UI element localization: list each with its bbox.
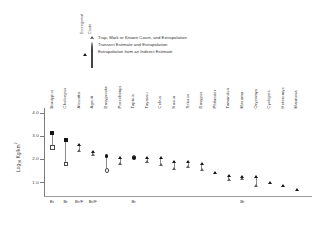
legend-label: Trap, Mark or Known Count, and Extrapola…	[98, 35, 187, 41]
category-label: Marmosa	[294, 90, 298, 108]
legend-header-ecoregional: Ecoregional	[81, 14, 85, 34]
legend-column-headers: Ecoregional Crude	[82, 2, 108, 34]
category-label: Heteromys	[280, 87, 284, 108]
y-axis-line	[44, 108, 45, 196]
category-label: Ageuti	[90, 95, 94, 108]
y-axis-tick	[40, 136, 44, 137]
data-point-crude	[227, 178, 231, 181]
data-point-ecoregional	[118, 156, 122, 159]
data-point-ecoregional	[240, 175, 244, 178]
data-point-ecoregional	[213, 171, 217, 174]
category-label: Choloepus	[63, 87, 67, 108]
data-point-ecoregional	[200, 162, 204, 165]
data-point-ecoregional	[281, 184, 285, 187]
category-label: Philander	[212, 89, 216, 108]
data-point-crude	[105, 168, 110, 173]
x-axis-group-label: Br	[240, 199, 244, 204]
category-labels: BradypusCholoepusAlouattaAgeutiDasyproct…	[0, 62, 319, 108]
circle-open-icon	[91, 43, 95, 47]
category-label: Cyclopes	[267, 90, 271, 108]
data-point-ecoregional	[50, 131, 54, 135]
data-point-crude	[159, 163, 163, 166]
y-axis-tick-label: 3.0	[27, 133, 39, 138]
category-label: Oryzomys	[253, 88, 257, 108]
data-point-crude	[118, 162, 122, 165]
data-point-ecoregional	[105, 154, 109, 158]
y-axis-title: Log10 Kg/km2	[14, 142, 23, 172]
data-point-crude	[64, 162, 69, 167]
data-point-ecoregional	[186, 160, 190, 163]
x-axis-group-label: Br/F	[75, 199, 83, 204]
x-axis-group-label: Br	[63, 199, 67, 204]
data-point-ecoregional	[159, 156, 163, 159]
y-axis-tick-label: 4.0	[27, 110, 39, 115]
x-axis-line	[44, 196, 312, 197]
category-label: Tapirus	[131, 94, 135, 108]
x-axis-group-label: Br	[50, 199, 54, 204]
x-axis-group-label: Br/F	[89, 199, 97, 204]
data-point-crude	[254, 184, 258, 187]
data-point-ecoregional	[77, 143, 81, 146]
legend-header-crude: Crude	[89, 24, 93, 34]
y-axis-tick	[40, 182, 44, 183]
data-point-ecoregional	[295, 188, 299, 191]
category-label: Nasua	[172, 95, 176, 108]
category-label: Mazama	[240, 91, 244, 108]
category-label: Dasypus	[199, 91, 203, 108]
data-point-ecoregional	[145, 156, 149, 159]
triangle-open-icon	[91, 36, 95, 40]
data-point-ecoregional	[227, 174, 231, 177]
data-point-crude	[200, 168, 204, 171]
data-point-ecoregional	[268, 181, 272, 184]
category-label: Dasyprocta	[104, 86, 108, 108]
data-point-crude	[77, 149, 81, 152]
plot-area: Log10 Kg/km2 4.03.02.01.0 BrBrBr/FBr/FBr…	[0, 108, 319, 200]
y-axis-tick	[40, 113, 44, 114]
x-axis-group-label: Br	[131, 199, 135, 204]
y-axis-tick	[40, 159, 44, 160]
range-connector	[65, 140, 66, 164]
category-label: Sciurus	[185, 93, 189, 108]
category-label: Cebus	[158, 95, 162, 108]
y-axis-tick-label: 2.0	[27, 156, 39, 161]
chart-figure: Ecoregional Crude Trap, Mark or Known Co…	[0, 0, 319, 226]
data-point-ecoregional	[132, 156, 136, 160]
legend-label: Extrapolation from an Indirect Estimate	[98, 49, 173, 55]
category-label: Tamandua	[226, 88, 230, 108]
legend-item-trap-mark: Trap, Mark or Known Count, and Extrapola…	[82, 35, 252, 41]
y-axis-tick-label: 1.0	[27, 180, 39, 185]
square-filled-icon	[83, 50, 87, 54]
category-label: Alouatta	[76, 92, 80, 108]
data-point-ecoregional	[254, 175, 258, 178]
data-point-crude	[91, 153, 95, 156]
category-label: Bradypus	[49, 90, 53, 109]
data-point-ecoregional	[91, 150, 95, 153]
legend: Ecoregional Crude Trap, Mark or Known Co…	[82, 2, 252, 54]
legend-item-indirect: Extrapolation from an Indirect Estimate	[82, 49, 252, 55]
circle-filled-icon	[83, 43, 87, 47]
data-point-crude	[186, 165, 190, 168]
data-point-crude	[172, 167, 176, 170]
legend-label: Transect Estimate and Extrapolation	[98, 42, 167, 48]
data-point-ecoregional	[172, 160, 176, 163]
triangle-filled-icon	[83, 36, 87, 40]
category-label: Tayassu	[144, 92, 148, 108]
data-point-crude	[50, 145, 55, 150]
square-open-icon	[91, 50, 95, 54]
category-label: Proechimys	[117, 85, 121, 108]
data-point-crude	[145, 160, 149, 163]
legend-item-transect: Transect Estimate and Extrapolation	[82, 42, 252, 48]
data-point-ecoregional	[64, 138, 68, 142]
